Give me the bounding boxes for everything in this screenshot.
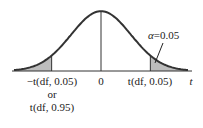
tick-label-or: or: [47, 88, 57, 100]
tick-label-center: 0: [98, 75, 104, 87]
t-distribution-chart: α=0.05 −t(df, 0.05) or t(df, 0.95) 0 t(d…: [0, 0, 203, 128]
tick-label-left-alt: t(df, 0.95): [30, 101, 75, 114]
tick-label-left: −t(df, 0.05): [27, 75, 78, 88]
annotation-arrow: [155, 43, 163, 63]
tick-label-right: t(df, 0.05): [128, 75, 173, 88]
alpha-value: =0.05: [154, 29, 180, 41]
axis-label-t: t: [189, 75, 193, 87]
alpha-annotation: α=0.05: [148, 29, 180, 41]
